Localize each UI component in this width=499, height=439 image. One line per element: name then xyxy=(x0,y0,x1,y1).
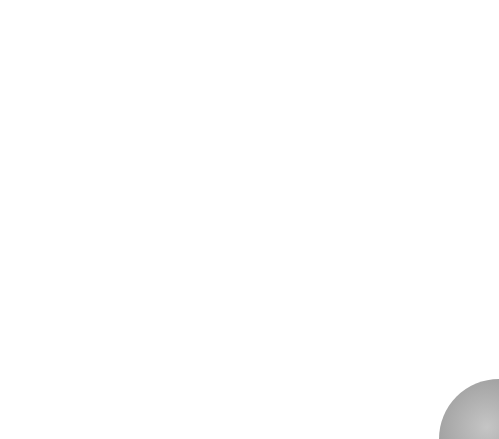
yarn-ball-image xyxy=(439,379,499,439)
